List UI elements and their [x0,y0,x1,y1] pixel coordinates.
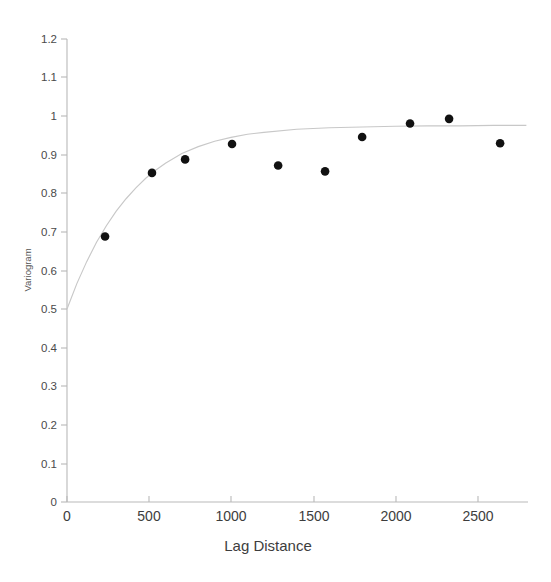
data-point [274,161,283,170]
y-tick-label: 1 [51,110,57,122]
y-tick-label: 0.5 [41,303,57,315]
chart-canvas: 1.2 1.1 1 0.9 0.8 0.7 0.6 0.5 0.4 0.3 0.… [0,0,551,582]
y-tick-label: 1.2 [41,33,57,45]
x-tick-label: 2500 [462,508,493,524]
data-point [496,139,505,148]
x-tick-label: 500 [137,508,161,524]
data-point [101,232,110,241]
data-point [406,119,415,128]
chart-background [0,0,551,582]
x-tick-label: 2000 [380,508,411,524]
y-axis-title: Variogram [22,248,33,291]
data-point [358,133,367,142]
data-point [181,155,190,164]
y-tick-label: 0.7 [41,226,57,238]
data-point [321,167,330,176]
data-point [228,140,237,149]
y-tick-label: 0.2 [41,419,57,431]
variogram-chart: 1.2 1.1 1 0.9 0.8 0.7 0.6 0.5 0.4 0.3 0.… [0,0,551,582]
y-tick-label: 0.6 [41,265,57,277]
y-tick-label: 0.1 [41,458,57,470]
y-tick-label: 1.1 [41,71,57,83]
x-tick-label: 0 [63,508,71,524]
x-tick-label: 1500 [298,508,329,524]
data-point [445,115,454,124]
y-tick-label: 0.9 [41,149,57,161]
y-tick-label: 0.8 [41,187,57,199]
y-tick-label: 0 [51,496,57,508]
data-point [148,169,157,178]
y-tick-label: 0.4 [41,342,58,354]
x-tick-label: 1000 [215,508,246,524]
y-tick-label: 0.3 [41,380,57,392]
x-axis-title: Lag Distance [224,537,312,554]
